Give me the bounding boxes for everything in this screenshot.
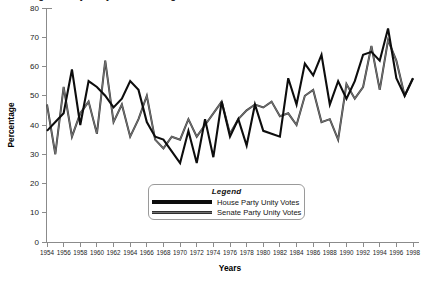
y-tick-label: 60 (30, 62, 39, 71)
x-tick-label: 1978 (240, 249, 255, 256)
y-tick-label: 40 (30, 121, 39, 130)
x-tick-label: 1956 (57, 249, 72, 256)
x-tick-label: 1976 (223, 249, 238, 256)
x-tick-label: 1988 (323, 249, 338, 256)
y-tick-label: 20 (30, 179, 39, 188)
x-tick-label: 1970 (173, 249, 188, 256)
y-axis-title: Percentage (6, 102, 16, 147)
chart-legend: Legend House Party Unity Votes Senate Pa… (148, 184, 305, 220)
y-tick-label: 70 (30, 33, 39, 42)
legend-swatch-house-icon (152, 198, 212, 206)
legend-label-house: House Party Unity Votes (217, 198, 299, 207)
x-tick-label: 1998 (406, 249, 421, 256)
legend-swatch-senate-icon (152, 209, 212, 217)
y-tick-label: 80 (30, 4, 39, 13)
x-tick-label: 1954 (40, 249, 55, 256)
x-tick-label: 1986 (306, 249, 321, 256)
x-tick-label: 1962 (107, 249, 122, 256)
x-tick-label: 1960 (90, 249, 105, 256)
x-tick-label: 1984 (290, 249, 305, 256)
x-tick-label: 1974 (206, 249, 221, 256)
x-tick-label: 1990 (339, 249, 354, 256)
x-tick-label: 1996 (389, 249, 404, 256)
x-tick-label: 1992 (356, 249, 371, 256)
x-tick-label: 1980 (256, 249, 271, 256)
legend-title: Legend (149, 187, 304, 196)
x-tick-label: 1994 (373, 249, 388, 256)
y-tick-label: 30 (30, 150, 39, 159)
y-tick-label: 10 (30, 208, 39, 217)
y-tick-label: 0 (35, 238, 40, 247)
legend-item-house: House Party Unity Votes (149, 198, 304, 207)
x-tick-label: 1966 (140, 249, 155, 256)
x-tick-label: 1964 (123, 249, 138, 256)
x-tick-label: 1972 (190, 249, 205, 256)
x-axis-title: Years (219, 263, 242, 273)
line-chart-plot: 0102030405060708019541956195819601962196… (0, 0, 426, 282)
legend-label-senate: Senate Party Unity Votes (217, 208, 301, 217)
y-tick-label: 50 (30, 91, 39, 100)
x-tick-label: 1968 (156, 249, 171, 256)
x-tick-label: 1958 (73, 249, 88, 256)
x-tick-label: 1982 (273, 249, 288, 256)
chart-figure: Figure Party Unity Votes in Congress 010… (0, 0, 426, 282)
legend-item-senate: Senate Party Unity Votes (149, 208, 304, 217)
